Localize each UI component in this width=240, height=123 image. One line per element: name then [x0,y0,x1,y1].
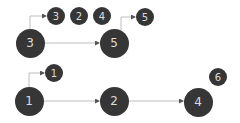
node-n1_small[interactable]: 1 [45,64,63,82]
node-label: 1 [25,94,33,108]
diagram-canvas: 33245511246 [0,0,240,123]
edge-n3_big-to-n3_small [30,16,46,29]
edge-n5_big-to-n5_small [121,17,135,30]
node-n5_small[interactable]: 5 [136,8,154,26]
node-n3_big[interactable]: 3 [16,29,45,58]
node-n5_big[interactable]: 5 [100,29,129,58]
node-n2_big[interactable]: 2 [100,87,129,116]
node-label: 3 [26,36,34,50]
node-label: 3 [53,11,59,22]
node-label: 5 [142,12,148,23]
node-n6_small[interactable]: 6 [209,68,227,86]
node-n2_small[interactable]: 2 [70,7,88,25]
node-label: 2 [110,94,118,108]
node-label: 2 [76,11,82,22]
node-label: 4 [99,11,105,22]
edge-n1_big-to-n1_small [29,73,44,87]
node-n4_small[interactable]: 4 [93,7,111,25]
node-n4_big[interactable]: 4 [184,88,213,117]
node-label: 1 [51,68,57,79]
node-label: 4 [194,95,202,109]
node-label: 5 [110,36,118,50]
node-label: 6 [215,72,221,83]
node-n1_big[interactable]: 1 [15,87,44,116]
node-n3_small[interactable]: 3 [47,7,65,25]
